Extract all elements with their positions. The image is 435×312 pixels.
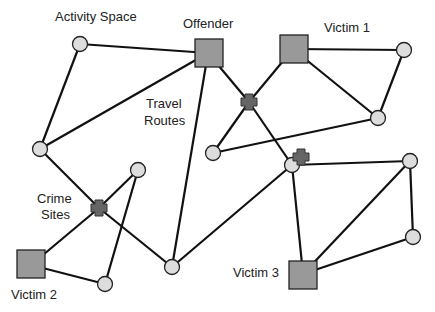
crime-sites [91,94,309,216]
route-cross1-cross2 [249,102,292,165]
route-activity-left [40,44,80,149]
route-cross2-right [292,161,410,165]
label-offender: Offender [183,16,234,31]
route-offender-left [40,53,208,149]
activity-node-circle [98,277,113,292]
crime-network-diagram: Activity Space Offender Victim 1 Travel … [0,0,435,312]
activity-node-circle [131,163,146,178]
label-travel-routes-1: Travel [146,96,182,111]
activity-node-circle [73,37,88,52]
activity-node-circle [403,154,418,169]
label-crime-sites-2: Sites [41,207,70,222]
route-victim1-topright [293,49,404,50]
activity-node-circle [206,146,221,161]
label-victim1: Victim 1 [324,20,370,35]
label-victim2: Victim 2 [11,287,57,302]
activity-node-circle [33,142,48,157]
travel-routes [31,44,413,284]
activity-node-circle [406,230,421,245]
route-cross3-bottom [99,208,172,267]
route-cross2-bottom [172,165,292,267]
label-activity-space: Activity Space [55,9,137,24]
victim1-square [280,35,308,63]
route-rightmid-circle [213,118,378,153]
offender-square [195,39,223,67]
route-topright-rightmid [378,50,404,118]
victim3-square [289,261,317,289]
route-cross2-victim3 [292,165,303,274]
route-right-rightlow [410,161,413,237]
route-activity-offender [80,44,208,53]
label-travel-routes-2: Routes [144,113,186,128]
route-cross1-circle [213,102,249,153]
label-crime-sites-1: Crime [37,191,72,206]
activity-node-circle [397,43,412,58]
label-victim3: Victim 3 [233,265,279,280]
activity-node-circle [371,111,386,126]
route-offender-bottom [172,53,208,267]
victim2-square [17,250,45,278]
activity-node-circle [165,260,180,275]
